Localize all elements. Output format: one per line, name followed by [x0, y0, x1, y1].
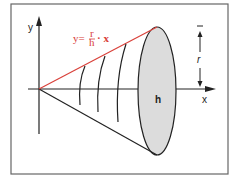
equation-denominator: h: [89, 36, 95, 48]
radius-arrow-up-icon: [198, 31, 203, 37]
radius-label: r: [197, 54, 201, 65]
cross-section-arc-2: [98, 56, 105, 112]
equation-lhs: y=: [73, 32, 85, 44]
height-label: h: [155, 94, 161, 105]
y-axis-arrow-icon: [36, 16, 42, 26]
cross-section-arc-3: [117, 44, 126, 122]
x-axis-label: x: [202, 94, 207, 105]
x-axis-arrow-icon: [205, 86, 216, 92]
cross-section-arc-1: [80, 66, 85, 105]
radius-arrow-down-icon: [198, 81, 203, 87]
y-axis-label: y: [28, 22, 33, 33]
equation-rhs: · x: [97, 32, 109, 44]
cone-base: [138, 27, 176, 155]
slant-equation: y= r h · x: [73, 27, 109, 48]
cone-diagram: y x h r y= r h · x: [0, 0, 232, 180]
diagram-frame: y x h r y= r h · x: [0, 0, 232, 180]
